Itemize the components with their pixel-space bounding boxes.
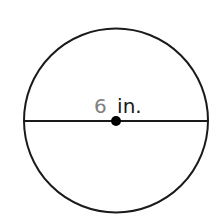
diameter-number: 6 [94,94,107,118]
diameter-label: 6 in. [94,94,142,118]
diameter-unit: in. [117,94,142,118]
circle-diagram: 6 in. [0,0,224,220]
